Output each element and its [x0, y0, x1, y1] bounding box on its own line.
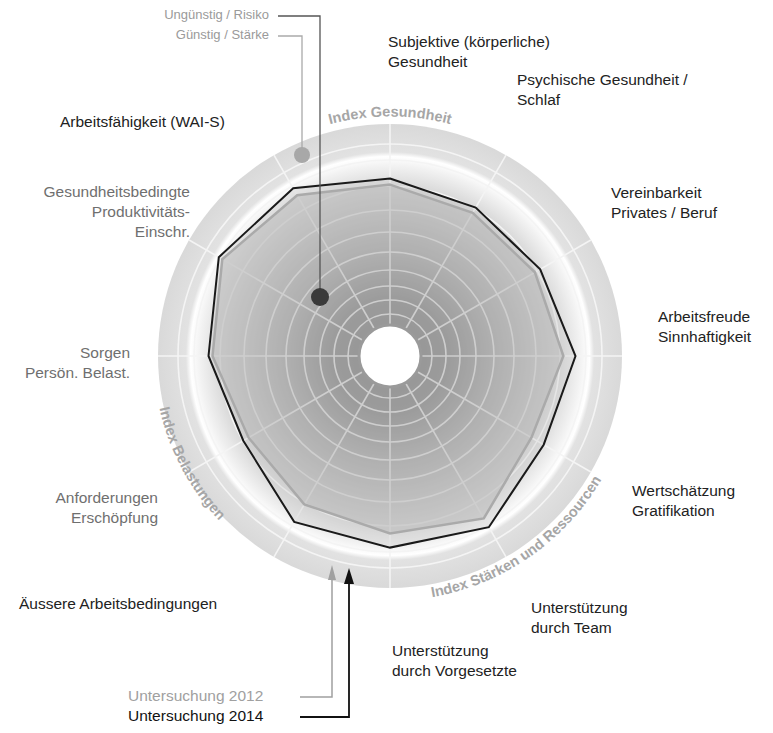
dimension-label-compatibility: Vereinbarkeit Privates / Beruf [611, 183, 717, 223]
dimension-label-worries: Sorgen Persön. Belast. [25, 343, 130, 383]
legend-2014-label: Untersuchung 2014 [128, 706, 263, 726]
index-health-label: Index Gesundheit [327, 103, 454, 127]
dimension-label-productivity: Gesundheitsbedingte Produktivitäts- Eins… [43, 182, 190, 242]
dimension-label-supervisor-support: Unterstützung durch Vorgesetzte [392, 641, 517, 681]
legend-strength-label: Günstig / Stärke [176, 26, 269, 44]
strength-dot-icon [294, 147, 310, 163]
dimension-label-external-conditions: Äussere Arbeitsbedingungen [19, 594, 217, 614]
dimension-label-team-support: Unterstützung durch Team [531, 598, 628, 638]
dimension-label-mental-health: Psychische Gesundheit / Schlaf [517, 70, 688, 110]
dimension-label-work-joy: Arbeitsfreude Sinnhaftigkeit [658, 307, 751, 347]
risk-dot-icon [311, 288, 329, 306]
dimension-label-work-ability: Arbeitsfähigkeit (WAI-S) [60, 112, 225, 132]
dimension-label-appreciation: Wertschätzung Gratifikation [632, 481, 735, 521]
center-hole [359, 325, 421, 387]
arrow-2012-line [300, 578, 332, 697]
dimension-label-demands: Anforderungen Erschöpfung [55, 488, 158, 528]
legend-2012-label: Untersuchung 2012 [128, 686, 263, 706]
dimension-label-subjective-health: Subjektive (körperliche) Gesundheit [388, 32, 550, 72]
legend-risk-label: Ungünstig / Risiko [164, 6, 269, 24]
strength-connector-line [278, 36, 302, 155]
